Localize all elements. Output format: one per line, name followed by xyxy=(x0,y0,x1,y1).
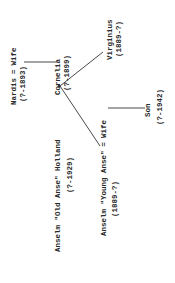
marriage-symbol: = xyxy=(10,69,18,74)
line-to-young-anse xyxy=(60,86,100,146)
old-anse-name: Anselm "Old Anse" Holland xyxy=(54,139,62,252)
nardis-name: Nardis xyxy=(10,77,18,105)
young-anse-line: Anselm "Young Anse"=Wife xyxy=(100,119,108,236)
nardis-wife-name: Wife xyxy=(10,47,18,66)
old-anse-dates: (?-1929) xyxy=(66,157,74,193)
young-anse-wife-name: Wife xyxy=(100,119,108,138)
son-name: Son xyxy=(144,103,152,117)
young-anse-dates: (1889-?) xyxy=(111,181,119,217)
virginius-dates: (1889-?) xyxy=(115,21,123,57)
family-tree-canvas: Nardis=Wife (?-1893) Cornelia (?-1899) A… xyxy=(0,0,175,283)
young-anse-name: Anselm "Young Anse" xyxy=(100,150,108,236)
virginius-name: Virginius xyxy=(106,19,114,60)
son-dates: (?-1942) xyxy=(156,89,164,125)
cornelia-name: Cornelia xyxy=(54,58,62,95)
marriage-symbol-2: = xyxy=(100,141,108,146)
cornelia-dates: (?-1899) xyxy=(63,55,71,91)
nardis-dates: (?-1893) xyxy=(19,66,27,102)
family-tree-diagram: Nardis=Wife (?-1893) Cornelia (?-1899) A… xyxy=(0,0,175,283)
nardis-line: Nardis=Wife xyxy=(10,47,18,105)
